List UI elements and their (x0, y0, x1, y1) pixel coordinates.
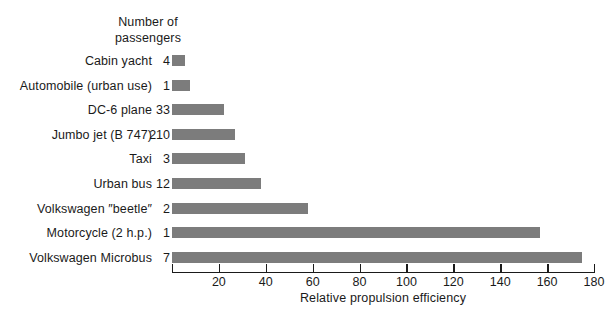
chart-row: Automobile (urban use)1 (0, 77, 613, 102)
row-passenger-count: 2 (140, 202, 170, 217)
chart-row: Volkswagen ″beetle″2 (0, 200, 613, 225)
x-axis-tick-label: 160 (527, 275, 567, 290)
row-category-label: Automobile (urban use) (20, 79, 152, 94)
chart-row: Motorcycle (2 h.p.)1 (0, 224, 613, 249)
x-axis-tick-label: 180 (574, 275, 613, 290)
row-category-label: Volkswagen Microbus (29, 251, 152, 266)
x-axis-tick-label: 120 (433, 275, 473, 290)
bar-chart: Number of passengers Cabin yacht4Automob… (0, 0, 613, 311)
bar (172, 252, 582, 263)
row-passenger-count: 1 (140, 79, 170, 94)
chart-row: Jumbo jet (B 747)210 (0, 126, 613, 151)
x-axis-tick-label: 140 (480, 275, 520, 290)
bar (172, 178, 261, 189)
bar (172, 104, 224, 115)
chart-row: Taxi3 (0, 150, 613, 175)
x-axis-tick-label: 60 (293, 275, 333, 290)
chart-row: Cabin yacht4 (0, 52, 613, 77)
bar (172, 203, 308, 214)
chart-row: Volkswagen Microbus7 (0, 249, 613, 274)
x-axis-tick-label: 20 (199, 275, 239, 290)
x-axis-title: Relative propulsion efficiency (172, 291, 594, 306)
chart-row: DC-6 plane33 (0, 101, 613, 126)
row-passenger-count: 33 (140, 103, 170, 118)
row-category-label: Jumbo jet (B 747) (52, 128, 152, 143)
row-passenger-count: 12 (140, 177, 170, 192)
chart-row: Urban bus12 (0, 175, 613, 200)
bar (172, 55, 185, 66)
row-passenger-count: 4 (140, 54, 170, 69)
bar (172, 227, 540, 238)
row-passenger-count: 210 (140, 128, 170, 143)
x-axis-tick-label: 100 (386, 275, 426, 290)
row-passenger-count: 7 (140, 251, 170, 266)
row-category-label: Motorcycle (2 h.p.) (47, 226, 152, 241)
row-passenger-count: 3 (140, 152, 170, 167)
bar (172, 153, 245, 164)
bar (172, 80, 190, 91)
passengers-column-caption: Number of passengers (92, 14, 204, 46)
x-axis-tick-label: 80 (340, 275, 380, 290)
row-category-label: Volkswagen ″beetle″ (37, 202, 152, 217)
x-axis-tick-label: 40 (246, 275, 286, 290)
bar (172, 129, 235, 140)
row-passenger-count: 1 (140, 226, 170, 241)
chart-rows: Cabin yacht4Automobile (urban use)1DC-6 … (0, 52, 613, 273)
